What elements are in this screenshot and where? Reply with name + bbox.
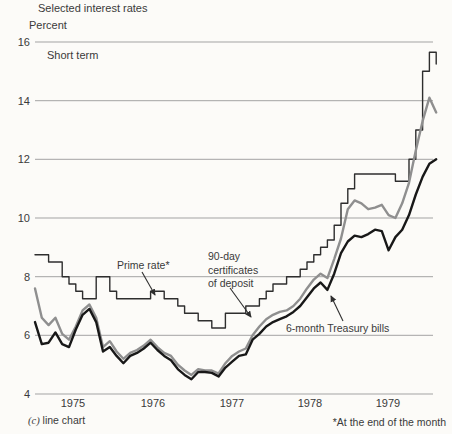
x-label-1979: 1979 <box>358 397 418 409</box>
chart-canvas <box>0 0 452 434</box>
prime-rate-label: Prime rate* <box>117 259 170 273</box>
x-label-1976: 1976 <box>123 397 183 409</box>
treasury-bills-arrow <box>331 296 343 321</box>
caption-text: line chart <box>43 414 86 426</box>
gridlines <box>35 42 433 394</box>
cd-label-line1: 90-day <box>208 250 258 264</box>
figure-caption: (c) line chart <box>28 414 85 426</box>
caption-letter: (c) <box>28 415 40 426</box>
prime-rate-arrow <box>142 272 155 295</box>
footnote: *At the end of the month <box>333 416 446 428</box>
x-label-1978: 1978 <box>280 397 340 409</box>
x-label-1975: 1975 <box>43 397 103 409</box>
treasury-bills-label: 6-month Treasury bills <box>286 322 389 336</box>
cd-label-line2: certificates <box>208 264 258 278</box>
x-label-1977: 1977 <box>202 397 262 409</box>
interest-rates-figure: Selected interest rates Percent Short te… <box>0 0 452 434</box>
cd-label-line3: of deposit <box>208 277 258 291</box>
cd-label: 90-day certificates of deposit <box>208 250 258 291</box>
